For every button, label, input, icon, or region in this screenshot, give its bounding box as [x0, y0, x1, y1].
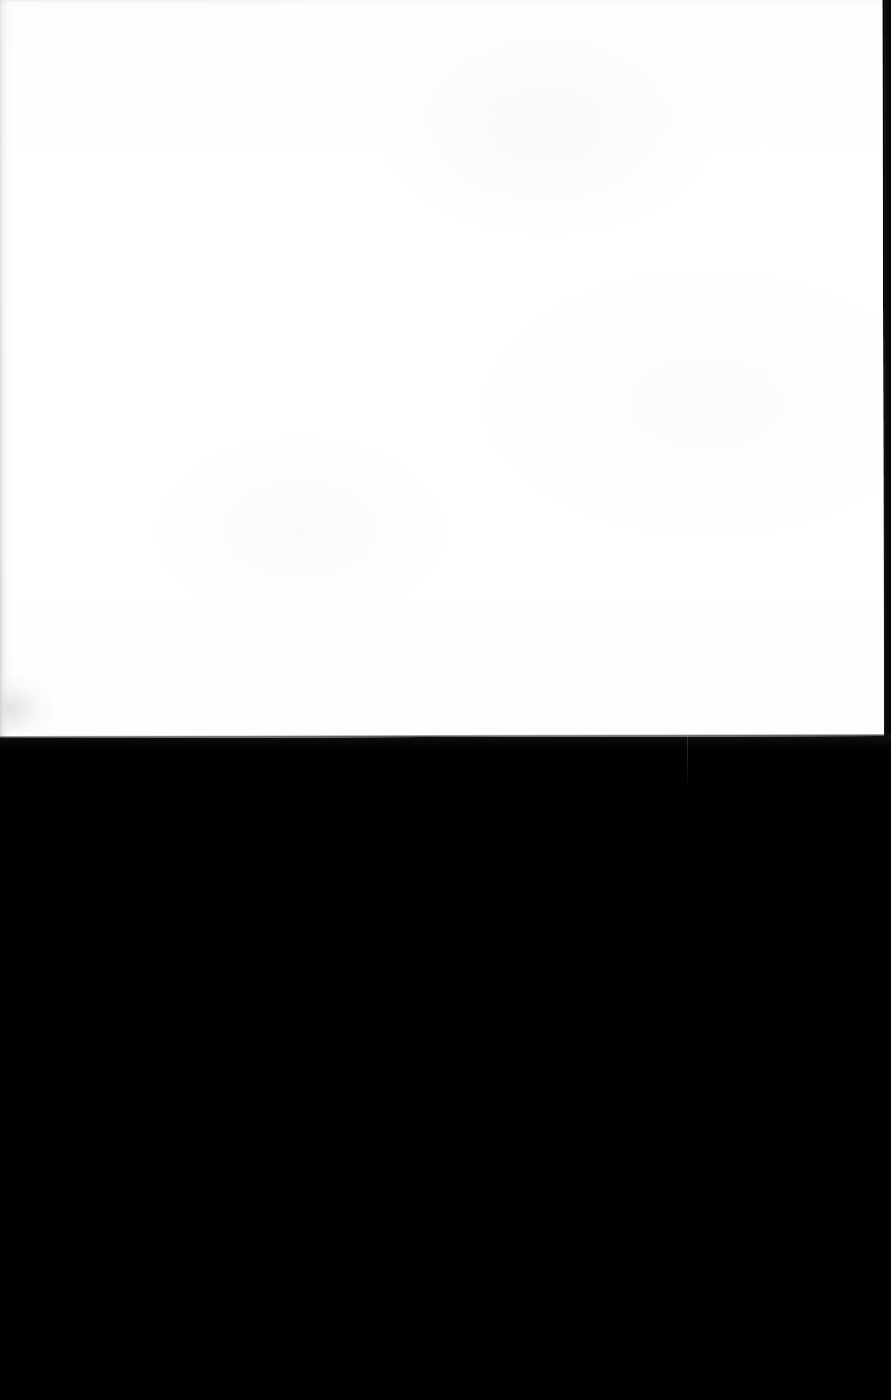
paper-surface-tone [0, 0, 884, 738]
scanned-page-sheet [0, 0, 884, 738]
right-frame-dark-strip [884, 0, 891, 734]
scan-canvas [0, 0, 891, 1400]
vertical-scan-streak-artifact [687, 735, 688, 791]
lower-left-corner-smudge [0, 674, 52, 732]
top-edge-scan-shadow [0, 0, 882, 7]
left-edge-scan-shadow [0, 0, 16, 738]
